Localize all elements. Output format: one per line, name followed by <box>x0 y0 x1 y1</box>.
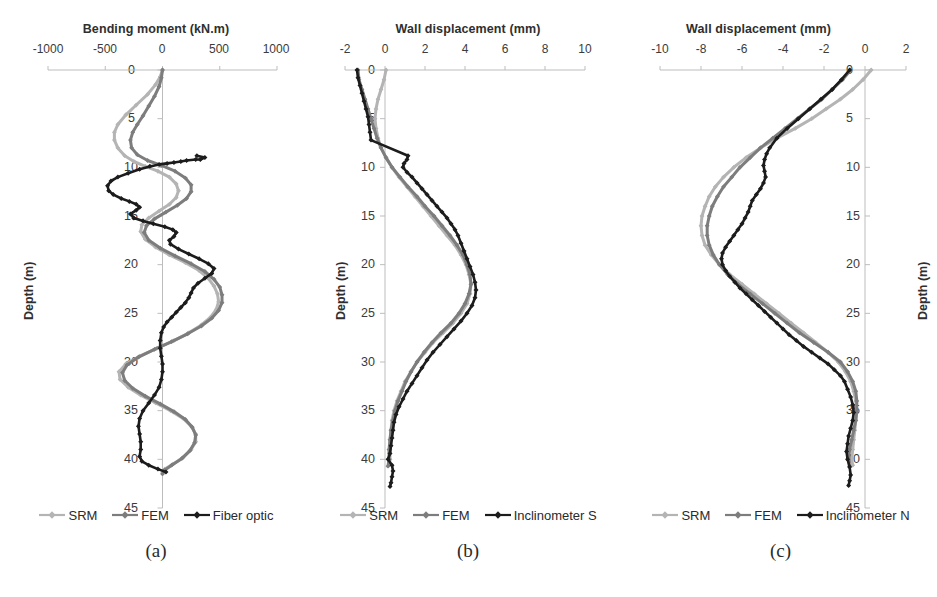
legend-label: Inclinometer S <box>514 508 597 523</box>
panel-label-a: (a) <box>0 540 312 562</box>
plot-area-b <box>312 0 624 520</box>
legend-label: FEM <box>754 508 781 523</box>
legend-label: Fiber optic <box>213 508 274 523</box>
legend-b: SRMFEMInclinometer S <box>312 503 624 527</box>
panel-label-b: (b) <box>312 540 624 562</box>
chart-panel-b: Wall displacement (mm) -2 0 2 4 6 8 10 D… <box>312 0 624 597</box>
legend-item-inclinometer-s[interactable]: Inclinometer S <box>484 508 597 523</box>
chart-panel-a: Bending moment (kN.m) -1000 -500 0 500 1… <box>0 0 312 597</box>
legend-label: FEM <box>141 508 168 523</box>
plot-area-c <box>624 0 937 520</box>
legend-item-srm[interactable]: SRM <box>651 508 710 523</box>
legend-marker-icon <box>183 508 211 522</box>
legend-item-fem[interactable]: FEM <box>412 508 469 523</box>
legend-label: SRM <box>681 508 710 523</box>
legend-marker-icon <box>412 508 440 522</box>
legend-item-fiber-optic[interactable]: Fiber optic <box>183 508 274 523</box>
legend-item-fem[interactable]: FEM <box>724 508 781 523</box>
legend-marker-icon <box>339 508 367 522</box>
chart-panel-c: Wall displacement (mm) -10 -8 -6 -4 -2 0… <box>624 0 937 597</box>
plot-area-a <box>0 0 312 520</box>
legend-item-fem[interactable]: FEM <box>111 508 168 523</box>
legend-item-inclinometer-n[interactable]: Inclinometer N <box>796 508 910 523</box>
legend-marker-icon <box>38 508 66 522</box>
panel-label-c: (c) <box>624 540 937 562</box>
legend-label: FEM <box>442 508 469 523</box>
legend-label: SRM <box>68 508 97 523</box>
legend-label: Inclinometer N <box>826 508 910 523</box>
legend-marker-icon <box>651 508 679 522</box>
figure-three-panel-chart: Bending moment (kN.m) -1000 -500 0 500 1… <box>0 0 937 597</box>
legend-item-srm[interactable]: SRM <box>38 508 97 523</box>
legend-marker-icon <box>796 508 824 522</box>
legend-marker-icon <box>484 508 512 522</box>
legend-marker-icon <box>111 508 139 522</box>
legend-item-srm[interactable]: SRM <box>339 508 398 523</box>
legend-marker-icon <box>724 508 752 522</box>
legend-a: SRMFEMFiber optic <box>0 503 312 527</box>
legend-c: SRMFEMInclinometer N <box>624 503 937 527</box>
legend-label: SRM <box>369 508 398 523</box>
